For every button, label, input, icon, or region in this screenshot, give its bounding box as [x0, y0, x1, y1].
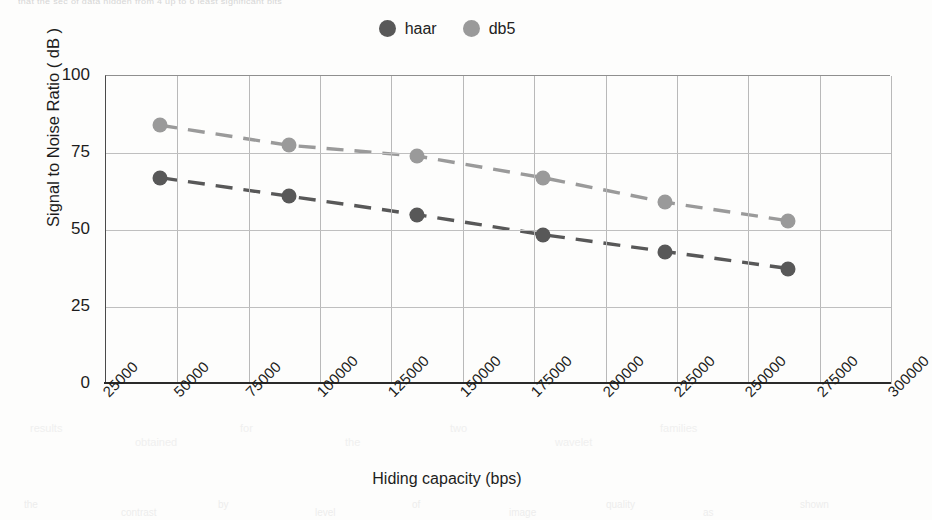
data-point-db5[interactable] — [281, 138, 296, 153]
gridline-horizontal — [106, 153, 891, 154]
scan-bleed-fragment: level — [315, 507, 336, 518]
y-tick-label: 50 — [30, 219, 90, 239]
scan-bleed-fragment: quality — [606, 499, 635, 510]
y-tick-label: 100 — [30, 65, 90, 85]
data-point-db5[interactable] — [535, 170, 550, 185]
data-point-haar[interactable] — [281, 189, 296, 204]
trend-line-db5 — [160, 125, 788, 220]
scan-bleed-fragment: shown — [800, 499, 829, 510]
data-point-db5[interactable] — [781, 213, 796, 228]
data-point-haar[interactable] — [658, 244, 673, 259]
legend-label-db5: db5 — [489, 21, 516, 37]
chart-legend: haar db5 — [0, 20, 894, 37]
data-point-db5[interactable] — [658, 195, 673, 210]
x-axis-line — [104, 382, 891, 384]
x-axis-title: Hiding capacity (bps) — [0, 470, 894, 488]
data-point-haar[interactable] — [410, 207, 425, 222]
legend-item-haar[interactable]: haar — [379, 20, 437, 37]
trend-line-haar — [160, 178, 788, 269]
y-tick-label: 25 — [30, 296, 90, 316]
data-point-haar[interactable] — [535, 227, 550, 242]
x-axis-tick-labels: 2500050000750001000001250001500001750002… — [0, 388, 894, 458]
y-tick-label: 75 — [30, 142, 90, 162]
legend-swatch-haar — [379, 20, 396, 37]
gridline-vertical — [891, 76, 892, 384]
legend-swatch-db5 — [463, 20, 480, 37]
scan-bleed-fragment: by — [218, 499, 229, 510]
y-axis-tick-labels: 0255075100 — [28, 75, 90, 383]
gridline-horizontal — [106, 230, 891, 231]
gridline-horizontal — [106, 307, 891, 308]
legend-label-haar: haar — [405, 21, 437, 37]
scan-bleed-fragment: as — [703, 507, 714, 518]
legend-item-db5[interactable]: db5 — [463, 20, 516, 37]
data-point-db5[interactable] — [153, 118, 168, 133]
plot-area — [105, 75, 890, 383]
scan-bleed-fragment: image — [509, 507, 536, 518]
data-point-haar[interactable] — [781, 261, 796, 276]
scan-bleed-fragment: contrast — [121, 507, 157, 518]
scan-bleed-fragment: the — [24, 499, 38, 510]
data-point-db5[interactable] — [410, 149, 425, 164]
scan-bleed-fragment: of — [412, 499, 420, 510]
scan-bleed-bottom: thecontrastbylevelofimagequalityasshown — [0, 496, 894, 520]
data-point-haar[interactable] — [153, 170, 168, 185]
